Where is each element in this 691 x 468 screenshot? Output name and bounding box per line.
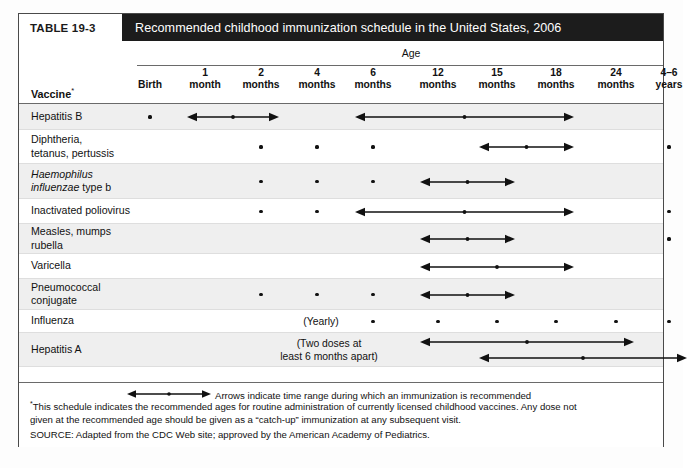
source-line: SOURCE: Adapted from the CDC Web site; a… bbox=[30, 429, 430, 440]
column-header-top: 6 bbox=[345, 67, 401, 79]
vaccine-name-line: Inactivated poliovirus bbox=[31, 204, 130, 217]
vaccine-header-footnote-marker: * bbox=[71, 86, 74, 95]
schedule-range-arrow bbox=[420, 232, 515, 246]
column-header-4-6-years: 4–6years bbox=[641, 67, 691, 91]
column-header-top: 4–6 bbox=[641, 67, 691, 79]
column-header-15-months: 15months bbox=[469, 67, 525, 91]
schedule-dot bbox=[371, 293, 374, 296]
vaccine-name: Diphtheria,tetanus, pertussis bbox=[31, 133, 114, 160]
vaccine-name-line: Measles, mumps bbox=[31, 225, 111, 238]
vaccine-name-line: Hepatitis A bbox=[31, 343, 82, 356]
column-header-6-months: 6months bbox=[345, 67, 401, 91]
schedule-dot bbox=[667, 145, 670, 148]
schedule-dot bbox=[436, 320, 439, 323]
vaccine-name-line: Pneumococcal bbox=[31, 281, 101, 294]
vaccine-column-header: Vaccine* bbox=[31, 86, 74, 100]
table-row: Measles, mumpsrubella bbox=[19, 224, 663, 254]
schedule-dot bbox=[315, 293, 318, 296]
schedule-dot bbox=[667, 237, 670, 240]
vaccine-name: Measles, mumpsrubella bbox=[31, 225, 111, 252]
schedule-range-arrow bbox=[355, 205, 574, 219]
schedule-dot bbox=[259, 180, 262, 183]
vaccine-name: Hepatitis B bbox=[31, 110, 82, 123]
schedule-dot bbox=[667, 210, 670, 213]
table-frame: TABLE 19-3 Recommended childhood immuniz… bbox=[18, 13, 664, 447]
schedule-dot bbox=[315, 145, 318, 148]
row-note-line: (Yearly) bbox=[291, 315, 351, 328]
row-note: (Two doses atleast 6 months apart) bbox=[244, 337, 414, 363]
schedule-dot bbox=[495, 320, 498, 323]
table-row: Diphtheria,tetanus, pertussis bbox=[19, 130, 663, 164]
column-header-top: 1 bbox=[177, 67, 233, 79]
schedule-range-arrow bbox=[479, 351, 687, 365]
row-note: (Yearly) bbox=[291, 315, 351, 328]
column-header-bottom: months bbox=[289, 79, 345, 91]
vaccine-name: Haemophilusinfluenzae type b bbox=[31, 168, 111, 195]
vaccine-name-line: Influenza bbox=[31, 314, 74, 327]
schedule-dot bbox=[371, 145, 374, 148]
table-row: Varicella bbox=[19, 254, 663, 279]
schedule-dot bbox=[148, 115, 151, 118]
column-header-bottom: months bbox=[345, 79, 401, 91]
schedule-dot bbox=[259, 210, 262, 213]
schedule-dot bbox=[259, 293, 262, 296]
table-row: Hepatitis A(Two doses atleast 6 months a… bbox=[19, 333, 663, 367]
schedule-dot bbox=[554, 320, 557, 323]
column-header-top: 2 bbox=[233, 67, 289, 79]
column-header-bottom: months bbox=[588, 79, 644, 91]
table-row: Hepatitis B bbox=[19, 104, 663, 130]
schedule-dot bbox=[371, 320, 374, 323]
column-header-2-months: 2months bbox=[233, 67, 289, 91]
footnote-line-1: *This schedule indicates the recommended… bbox=[30, 398, 654, 414]
vaccine-name-line: Hepatitis B bbox=[31, 110, 82, 123]
column-header-top: 24 bbox=[588, 67, 644, 79]
vaccine-name: Inactivated poliovirus bbox=[31, 204, 130, 217]
column-header-bottom: month bbox=[177, 79, 233, 91]
vaccine-name-line: tetanus, pertussis bbox=[31, 147, 114, 160]
column-header-birth: Birth bbox=[122, 67, 178, 91]
table-row: Haemophilusinfluenzae type b bbox=[19, 164, 663, 199]
schedule-range-arrow bbox=[420, 175, 515, 189]
column-header-24-months: 24months bbox=[588, 67, 644, 91]
vaccine-name: Influenza bbox=[31, 314, 74, 327]
column-header-bottom: months bbox=[233, 79, 289, 91]
schedule-dot bbox=[667, 320, 670, 323]
vaccine-name: Pneumococcalconjugate bbox=[31, 281, 101, 308]
column-header-top bbox=[122, 67, 178, 79]
schedule-range-arrow bbox=[355, 110, 574, 124]
row-note-line: (Two doses at bbox=[244, 337, 414, 350]
table-rows: Hepatitis BDiphtheria,tetanus, pertussis… bbox=[19, 104, 663, 367]
row-note-line: least 6 months apart) bbox=[244, 350, 414, 363]
vaccine-name-line: Varicella bbox=[31, 259, 71, 272]
vaccine-name-line: rubella bbox=[31, 239, 111, 252]
table-row: Inactivated poliovirus bbox=[19, 199, 663, 224]
age-group-header: Age bbox=[139, 47, 683, 59]
column-header-bottom: months bbox=[528, 79, 584, 91]
footnote-text-1: This schedule indicates the recommended … bbox=[33, 401, 577, 412]
column-header-1-month: 1month bbox=[177, 67, 233, 91]
vaccine-name-line: conjugate bbox=[31, 294, 101, 307]
schedule-dot bbox=[315, 180, 318, 183]
schedule-dot bbox=[371, 180, 374, 183]
schedule-range-arrow bbox=[479, 140, 574, 154]
schedule-dot bbox=[259, 145, 262, 148]
schedule-range-arrow bbox=[187, 110, 279, 124]
vaccine-name-line: Diphtheria, bbox=[31, 133, 114, 146]
footnote-line-2: given at the recommended age should be g… bbox=[30, 414, 654, 427]
vaccine-name: Varicella bbox=[31, 259, 71, 272]
table-row: Influenza(Yearly) bbox=[19, 310, 663, 333]
age-group-rule bbox=[137, 65, 663, 66]
column-header-12-months: 12months bbox=[410, 67, 466, 91]
table-number: TABLE 19-3 bbox=[19, 14, 122, 41]
schedule-range-arrow bbox=[420, 335, 634, 349]
column-header-top: 4 bbox=[289, 67, 345, 79]
column-header-18-months: 18months bbox=[528, 67, 584, 91]
column-header-top: 12 bbox=[410, 67, 466, 79]
column-header-bottom: years bbox=[641, 79, 691, 91]
table-title-bar: TABLE 19-3 Recommended childhood immuniz… bbox=[19, 14, 663, 41]
schedule-range-arrow bbox=[420, 260, 574, 274]
column-header-4-months: 4months bbox=[289, 67, 345, 91]
footer-rule bbox=[19, 382, 663, 383]
schedule-range-arrow bbox=[420, 288, 515, 302]
